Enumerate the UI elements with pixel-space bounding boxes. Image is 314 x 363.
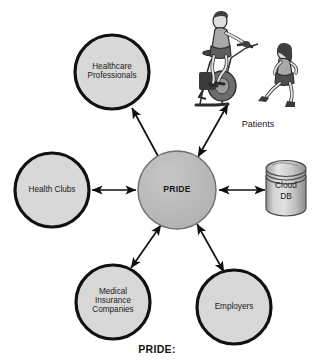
patients-illustration (196, 11, 296, 107)
connector-pride-to-employers (197, 224, 224, 272)
node-employers[interactable] (197, 270, 271, 344)
connector-pride-to-medical-insurance-companies (131, 225, 161, 268)
node-pride-hub[interactable] (138, 151, 216, 229)
cloud-db-cylinder (266, 161, 306, 217)
connector-pride-to-patients (198, 104, 228, 157)
connector-pride-to-healthcare-professionals (132, 108, 158, 156)
node-health-clubs[interactable] (15, 153, 89, 227)
pride-ecosystem-diagram (0, 0, 314, 363)
diagram-caption: PRIDE: (0, 343, 314, 355)
node-medical-insurance-companies[interactable] (76, 265, 150, 339)
node-healthcare-professionals[interactable] (75, 35, 149, 109)
diagram-page: Healthcare Professionals Health Clubs Me… (0, 0, 314, 363)
